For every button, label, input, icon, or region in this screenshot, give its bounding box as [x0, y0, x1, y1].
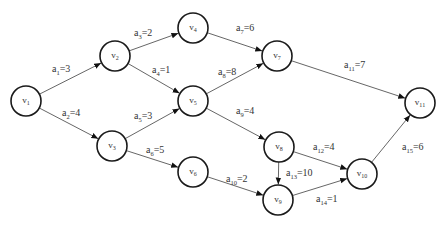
- edge-label-a1: a1=3: [52, 63, 70, 76]
- node-v5: v5: [178, 86, 208, 116]
- edge-label-a4: a4=1: [152, 64, 170, 77]
- edge-a10: a10=2: [207, 173, 263, 195]
- node-v3: v3: [97, 131, 127, 161]
- node-v6: v6: [178, 157, 208, 187]
- edge-label-a3: a3=2: [134, 27, 152, 40]
- node-v9: v9: [263, 185, 293, 215]
- edge-a3: a3=2: [129, 27, 178, 51]
- edge-label-a6: a6=5: [146, 144, 164, 157]
- edge-a13: a13=10: [278, 162, 312, 185]
- edge-label-a2: a2=4: [62, 107, 80, 120]
- edge-label-a5: a5=3: [134, 110, 152, 123]
- edge-label-a9: a9=4: [236, 105, 254, 118]
- edge-a7: a7=6: [207, 22, 262, 51]
- edge-a8: a8=8: [206, 63, 263, 94]
- edge-a5: a5=3: [125, 109, 179, 139]
- edge-a1: a1=3: [39, 63, 101, 94]
- edge-label-a11: a11=7: [344, 59, 365, 72]
- edge-a2: a2=4: [39, 107, 98, 139]
- node-v11: v11: [405, 88, 435, 118]
- edge-a15: a15=6: [372, 115, 424, 162]
- edge-label-a13: a13=10: [286, 167, 313, 180]
- edge-a4: a4=1: [128, 64, 180, 94]
- node-v4: v4: [178, 13, 208, 43]
- edge-label-a7: a7=6: [236, 22, 254, 35]
- edge-a9: a9=4: [206, 105, 265, 140]
- edge-arrow-a7: [207, 33, 262, 51]
- node-v10: v10: [347, 159, 377, 189]
- node-v7: v7: [262, 41, 292, 71]
- node-v1: v1: [11, 86, 41, 116]
- edge-label-a14: a14=1: [316, 193, 338, 206]
- edge-label-a15: a15=6: [402, 141, 424, 154]
- edge-label-a8: a8=8: [218, 66, 236, 79]
- edge-a12: a12=4: [293, 141, 347, 169]
- edge-label-a12: a12=4: [313, 141, 335, 154]
- edge-a6: a6=5: [126, 144, 178, 167]
- edge-label-a10: a10=2: [226, 173, 248, 186]
- edge-arrow-a15: [372, 115, 411, 162]
- node-v2: v2: [100, 41, 130, 71]
- edge-a11: a11=7: [291, 59, 405, 98]
- edge-a14: a14=1: [292, 179, 347, 206]
- node-v8: v8: [264, 132, 294, 162]
- graph-diagram: a1=3a2=4a3=2a4=1a5=3a6=5a7=6a8=8a9=4a10=…: [0, 0, 447, 228]
